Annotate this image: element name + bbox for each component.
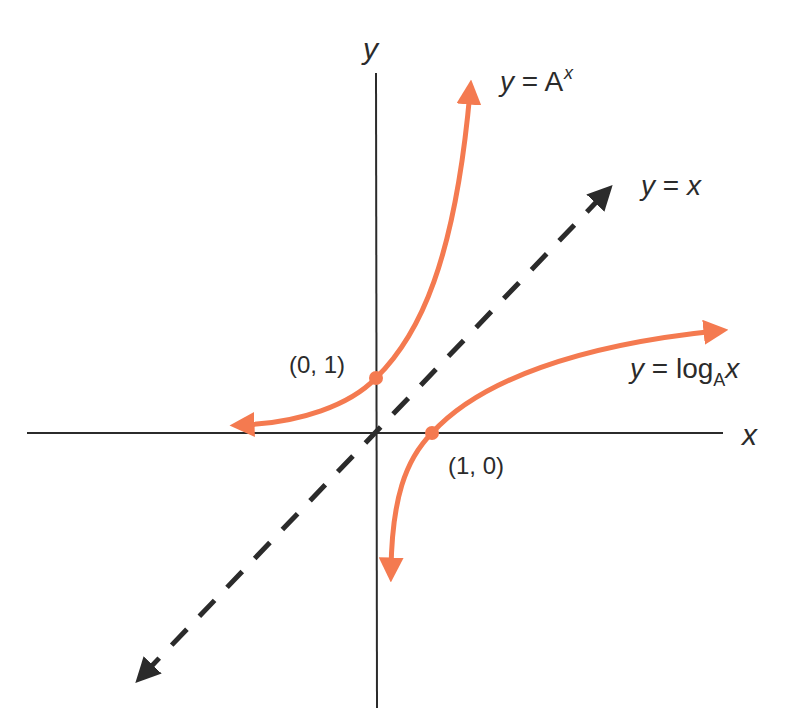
- log-fn: log: [676, 353, 713, 384]
- log-lhs: y: [630, 353, 644, 384]
- logarithm-label: y = logAx: [630, 355, 739, 389]
- id-lhs: y: [641, 170, 655, 201]
- exp-exponent: x: [564, 63, 573, 83]
- exponential-curve: [242, 92, 470, 425]
- point-1-0-label: (1, 0): [448, 454, 504, 478]
- id-eq: =: [655, 170, 687, 201]
- y-axis: [376, 73, 377, 708]
- x-axis-label: x: [742, 420, 757, 450]
- exp-lhs: y: [500, 66, 514, 97]
- point-0-1-marker: [369, 371, 383, 385]
- identity-label: y = x: [641, 172, 701, 200]
- log-eq: =: [644, 353, 676, 384]
- point-1-0-marker: [425, 426, 439, 440]
- log-base: A: [713, 370, 725, 390]
- exp-base: A: [544, 66, 563, 97]
- id-rhs: x: [687, 170, 701, 201]
- exponential-label: y = Ax: [500, 64, 573, 96]
- y-axis-label: y: [363, 34, 378, 64]
- log-arg: x: [725, 353, 739, 384]
- exp-eq: =: [514, 66, 544, 97]
- point-0-1-label: (0, 1): [289, 353, 345, 377]
